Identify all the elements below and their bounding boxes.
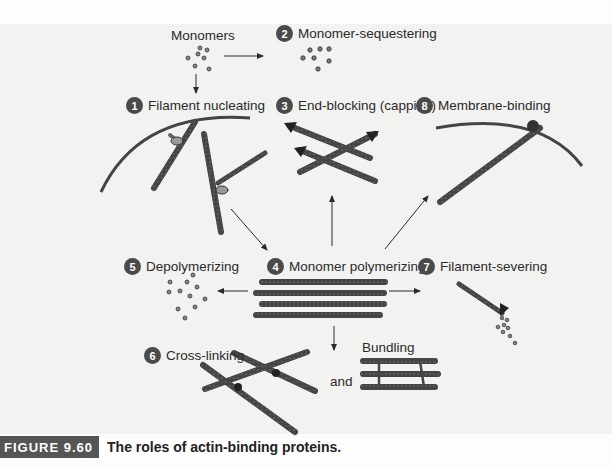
bundling-label: Bundling [362, 340, 415, 355]
step-4-label: 4 Monomer polymerizing [267, 258, 426, 275]
arrow-polymerizing-to-membrane [385, 196, 428, 249]
step-5-label: 5 Depolymerizing [124, 258, 239, 275]
step-number-badge: 7 [418, 258, 435, 275]
depolymerized-monomers [167, 273, 207, 320]
step-6-label: 6 Cross-linking [144, 347, 244, 364]
and-label: and [330, 374, 353, 389]
figure-title: The roles of actin-binding proteins. [107, 439, 341, 455]
membrane-binding-filament [440, 120, 540, 202]
nucleating-filaments [154, 122, 265, 232]
step-label-text: Filament nucleating [148, 98, 265, 113]
step-3-label: 3 End-blocking (capping) [276, 97, 436, 114]
diagram-artwork [0, 0, 612, 467]
step-label-text: Monomer polymerizing [289, 259, 426, 274]
step-8-label: 8 Membrane-binding [416, 97, 551, 114]
step-number-badge: 2 [276, 25, 293, 42]
membrane-arc-binding [436, 124, 582, 166]
figure-number: FIGURE 9.60 [0, 436, 99, 458]
severed-monomers [496, 316, 517, 345]
textbook-page: Monomers 2 Monomer-sequestering 1 Filame… [0, 0, 612, 467]
step-number-badge: 6 [144, 347, 161, 364]
step-number-badge: 4 [267, 258, 284, 275]
step-number-badge: 8 [416, 97, 433, 114]
step-7-label: 7 Filament-severing [418, 258, 547, 275]
polymerizing-filaments [256, 282, 385, 315]
step-2-label: 2 Monomer-sequestering [276, 25, 437, 42]
capping-filaments [284, 122, 379, 181]
sequestered-monomers [301, 47, 331, 71]
severing-filament [459, 284, 509, 316]
step-label-text: Filament-severing [440, 259, 547, 274]
monomers-label: Monomers [171, 28, 235, 43]
step-label-text: Membrane-binding [438, 98, 551, 113]
step-number-badge: 3 [276, 97, 293, 114]
crosslinked-filaments [203, 352, 315, 432]
bundled-filaments [363, 361, 438, 387]
figure-caption: FIGURE 9.60 The roles of actin-binding p… [0, 436, 341, 458]
arrow-nucleating-to-polymerizing [231, 209, 267, 250]
step-1-label: 1 Filament nucleating [126, 97, 265, 114]
monomer-dots [186, 46, 211, 71]
step-number-badge: 5 [124, 258, 141, 275]
step-label-text: Monomer-sequestering [298, 26, 437, 41]
step-label-text: Depolymerizing [146, 259, 239, 274]
step-label-text: Cross-linking [166, 348, 244, 363]
step-number-badge: 1 [126, 97, 143, 114]
